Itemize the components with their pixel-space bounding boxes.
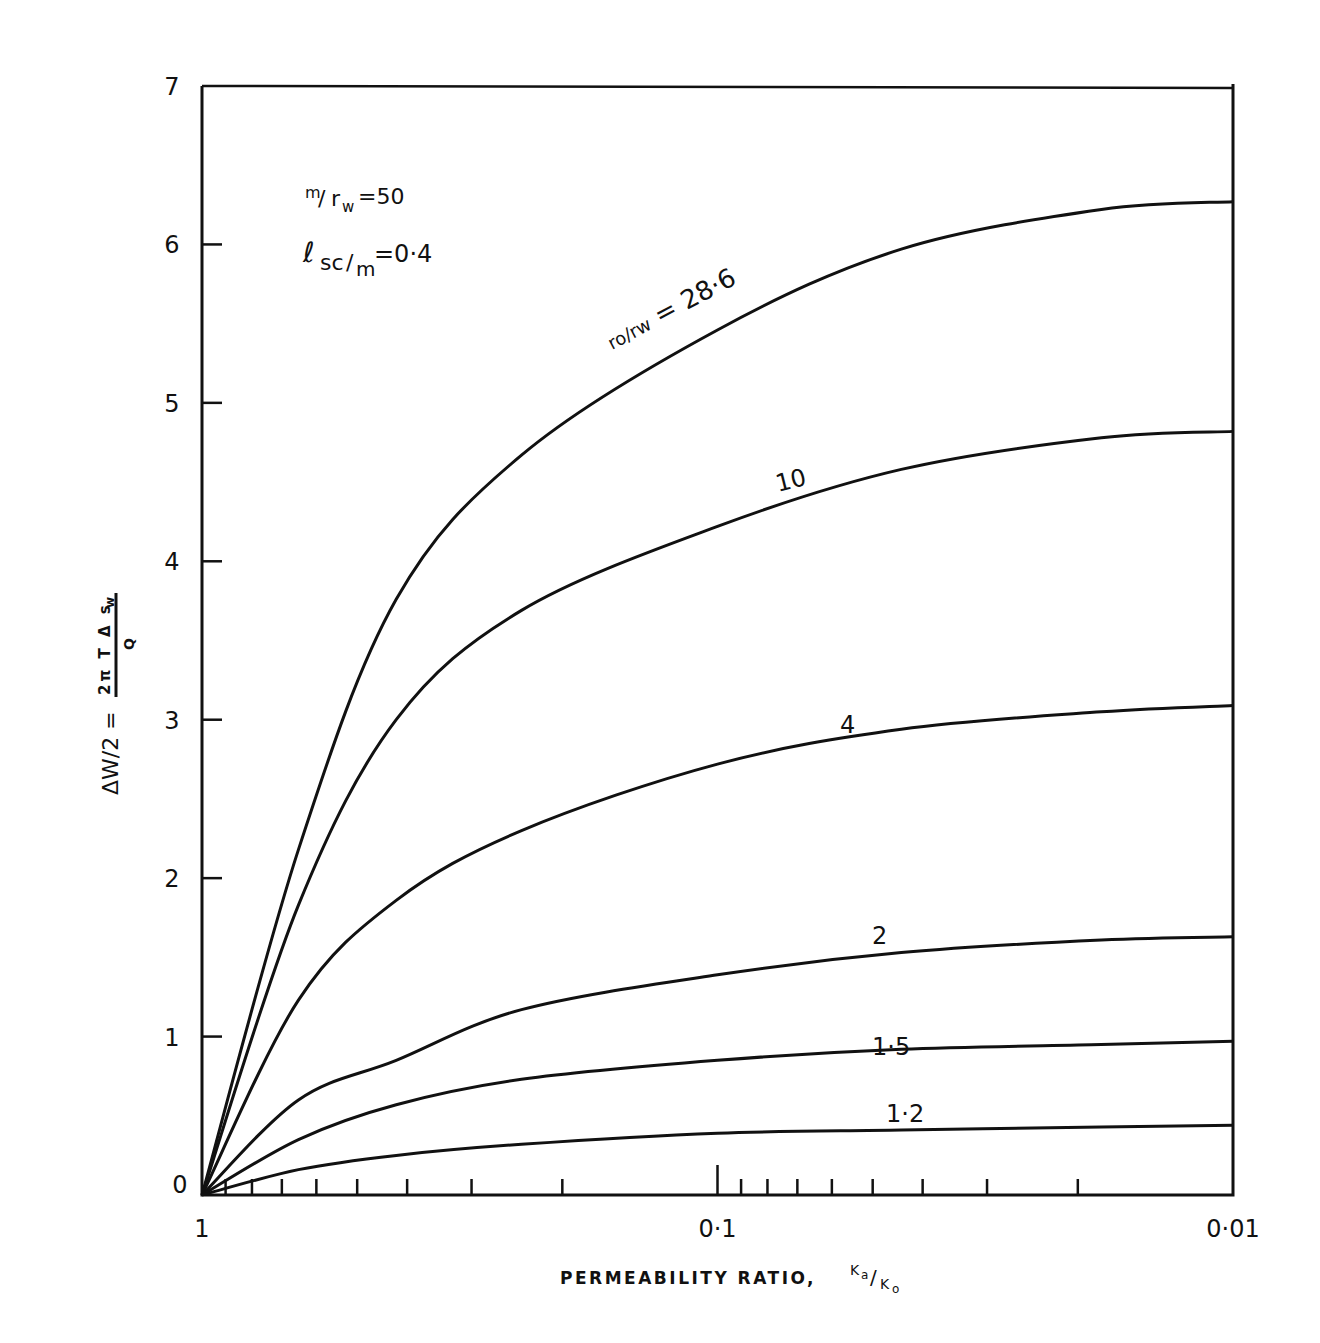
curve-label: 1·5 <box>872 1033 910 1061</box>
x-axis-ticks: 10·10·01 <box>194 1165 1259 1243</box>
svg-text:ΔW/2 =: ΔW/2 = <box>98 711 123 795</box>
annotation-m-over-rw: m / r w =50 <box>305 183 404 216</box>
y-tick-label: 7 <box>164 73 179 101</box>
y-axis-label: ΔW/2 = 2π T Δ s w Q <box>96 593 137 795</box>
x-axis-label: PERMEABILITY RATIO, K a / K o <box>560 1262 899 1296</box>
svg-text:K: K <box>880 1276 890 1292</box>
x-tick-label: 1 <box>194 1215 209 1243</box>
svg-text:ℓ: ℓ <box>302 236 315 269</box>
svg-text:a: a <box>861 1268 868 1282</box>
y-tick-label: 6 <box>164 231 179 259</box>
svg-text:sc: sc <box>320 250 344 275</box>
y-tick-label: 0 <box>172 1171 187 1199</box>
curve-label: 2 <box>872 922 887 950</box>
svg-text:w: w <box>342 198 354 216</box>
y-tick-label: 5 <box>164 390 179 418</box>
x-tick-label: 0·1 <box>698 1215 736 1243</box>
svg-text:/: / <box>318 186 326 211</box>
svg-text:=50: =50 <box>358 184 404 209</box>
curve-labels: ro/rw = 28·610421·51·2 <box>601 262 924 1128</box>
plot-frame <box>202 84 1233 1195</box>
y-tick-label: 3 <box>164 707 179 735</box>
annotation-lsc-over-m: ℓ sc / m =0·4 <box>302 236 432 281</box>
curves <box>202 202 1233 1195</box>
svg-text:/: / <box>346 250 354 275</box>
curve-label: 10 <box>773 463 809 498</box>
y-tick-label: 1 <box>164 1024 179 1052</box>
curve-label: ro/rw = 28·6 <box>601 262 741 355</box>
svg-text:Q: Q <box>121 638 137 650</box>
svg-text:m: m <box>356 257 375 281</box>
svg-text:PERMEABILITY RATIO,: PERMEABILITY RATIO, <box>560 1268 816 1288</box>
y-tick-label: 4 <box>164 548 179 576</box>
svg-text:/: / <box>870 1265 877 1289</box>
curve-line <box>202 431 1233 1195</box>
svg-text:=0·4: =0·4 <box>374 240 432 268</box>
y-axis-ticks: 01234567 <box>164 73 222 1199</box>
svg-text:2π T Δ s: 2π T Δ s <box>96 602 114 695</box>
y-tick-label: 2 <box>164 865 179 893</box>
x-tick-label: 0·01 <box>1206 1215 1259 1243</box>
chart: 10·10·01 01234567 ro/rw = 28·610421·51·2… <box>0 0 1320 1343</box>
svg-text:r: r <box>331 186 341 211</box>
curve-line <box>202 937 1233 1195</box>
svg-text:o: o <box>892 1282 899 1296</box>
curve-label: 1·2 <box>886 1100 924 1128</box>
svg-text:K: K <box>850 1262 860 1278</box>
curve-label: 4 <box>840 711 855 739</box>
